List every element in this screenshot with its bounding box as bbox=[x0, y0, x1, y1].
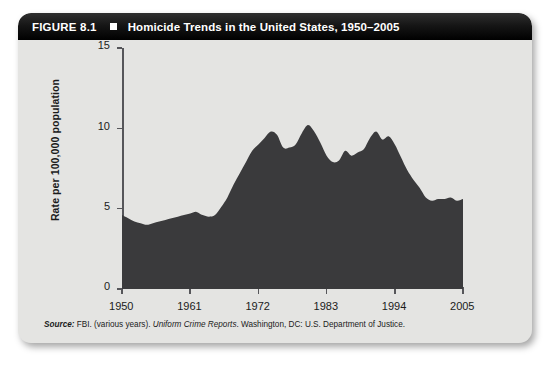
x-tick-label-1961: 1961 bbox=[177, 300, 201, 312]
source-label: Source: bbox=[44, 320, 74, 329]
x-tick-1950: 1950 bbox=[121, 289, 123, 294]
x-tick-1972: 1972 bbox=[258, 289, 260, 294]
homicide-rate-area-series bbox=[122, 48, 463, 289]
figure-number: FIGURE 8.1 bbox=[32, 21, 97, 33]
y-tick-label-0: 0 bbox=[104, 280, 110, 292]
source-text-before: FBI. (various years). bbox=[77, 320, 151, 329]
y-axis-title: Rate per 100,000 population bbox=[49, 55, 61, 245]
source-publication-title: Uniform Crime Reports bbox=[153, 320, 237, 329]
source-note: Source: FBI. (various years). Uniform Cr… bbox=[44, 320, 405, 329]
x-tick-label-2005: 2005 bbox=[450, 300, 474, 312]
plot-box: 051015 195019611972198319942005 bbox=[122, 48, 463, 289]
x-tick-label-1983: 1983 bbox=[314, 300, 338, 312]
x-tick-1983: 1983 bbox=[326, 289, 328, 294]
x-tick-label-1950: 1950 bbox=[109, 300, 133, 312]
chart-area: Rate per 100,000 population 051015 19501… bbox=[18, 40, 532, 312]
y-tick-label-5: 5 bbox=[104, 200, 110, 212]
figure-title-bar: FIGURE 8.1 Homicide Trends in the United… bbox=[18, 13, 532, 40]
y-tick-label-10: 10 bbox=[98, 120, 110, 132]
figure-card: FIGURE 8.1 Homicide Trends in the United… bbox=[18, 13, 532, 343]
x-tick-1961: 1961 bbox=[189, 289, 191, 294]
figure-title: Homicide Trends in the United States, 19… bbox=[128, 21, 400, 33]
y-tick-label-15: 15 bbox=[98, 39, 110, 51]
source-text-after: . Washington, DC: U.S. Department of Jus… bbox=[236, 320, 405, 329]
x-tick-1994: 1994 bbox=[394, 289, 396, 294]
x-tick-label-1972: 1972 bbox=[245, 300, 269, 312]
square-bullet-icon bbox=[110, 23, 117, 30]
x-tick-label-1994: 1994 bbox=[382, 300, 406, 312]
x-tick-2005: 2005 bbox=[462, 289, 464, 294]
